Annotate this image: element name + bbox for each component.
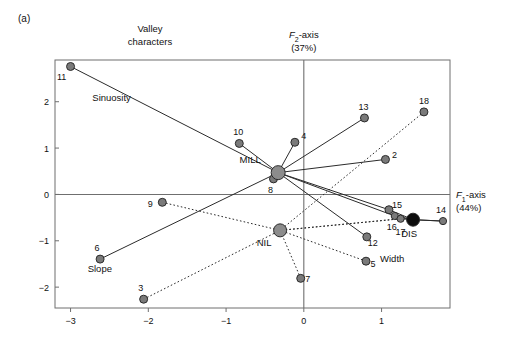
data-point-label-3: 3 [138,283,143,293]
centroid-dis[interactable] [407,213,420,226]
x-tick-label: −1 [221,316,231,326]
x-tick-label: 0 [301,316,306,326]
connector-line-13 [278,118,364,173]
x-axis-title-main: F1-axis [456,189,486,203]
connector-line-7 [280,230,301,278]
data-point-label-2: 2 [392,150,397,160]
annotation-sinuosity: Sinuosity [92,92,131,103]
connector-line-9 [162,202,280,230]
annotation-width: Width [380,253,404,264]
data-point-9[interactable] [158,198,166,206]
ordination-biplot: (a)Valleycharacters−3−2−101210−1−2F2-axi… [0,0,506,340]
biplot-figure: (a)Valleycharacters−3−2−101210−1−2F2-axi… [0,0,506,340]
data-point-label-4: 4 [301,131,306,141]
y-tick-label: 1 [44,144,49,154]
data-point-label-6: 6 [95,243,100,253]
y-tick-label: −2 [39,283,49,293]
x-axis-title: F1-axis(44%) [456,189,486,213]
y-axis-title: F2-axis(37%) [289,29,319,53]
data-point-10[interactable] [235,139,243,147]
data-point-17[interactable] [397,215,404,222]
centroid-mill[interactable] [271,166,285,180]
group-label-dis: DIS [401,228,417,239]
data-point-label-9: 9 [148,199,153,209]
y-axis-title-pct: (37%) [291,42,316,53]
data-point-6[interactable] [96,255,104,263]
data-point-label-12: 12 [368,238,378,248]
data-point-2[interactable] [381,155,389,163]
x-tick-label: 1 [379,316,384,326]
panel-label: (a) [18,13,30,24]
data-point-label-8: 8 [268,185,273,195]
group-label-nil: NIL [257,237,272,248]
data-point-label-18: 18 [419,96,429,106]
x-axis-title-pct: (44%) [456,202,481,213]
data-point-14[interactable] [439,217,446,224]
data-point-label-14: 14 [436,205,446,215]
connector-line-15 [278,173,389,210]
data-point-7[interactable] [297,274,305,282]
data-point-4[interactable] [291,138,299,146]
data-point-label-7: 7 [305,274,310,284]
annotation-slope: Slope [88,263,112,274]
y-tick-label: 0 [44,190,49,200]
x-tick-label: −3 [65,316,75,326]
data-point-13[interactable] [360,114,368,122]
data-point-label-5: 5 [371,259,376,269]
connector-line-12 [278,173,367,237]
connector-line-5 [280,230,366,261]
header-title-line2: characters [128,36,173,47]
data-point-11[interactable] [67,62,75,70]
connector-extra-17 [280,219,401,231]
y-tick-label: −1 [39,236,49,246]
connector-line-6 [100,173,278,259]
data-point-label-11: 11 [57,72,66,82]
connector-line-2 [278,159,385,172]
data-point-label-15: 15 [392,200,402,210]
data-point-5[interactable] [362,257,370,265]
y-axis-title-main: F2-axis [289,29,319,43]
centroid-nil[interactable] [274,224,287,237]
data-point-18[interactable] [420,108,428,116]
data-point-label-10: 10 [233,127,243,137]
data-point-label-13: 13 [358,102,368,112]
data-point-3[interactable] [140,295,148,303]
connector-line-18 [280,112,424,230]
group-label-mill: MILL [240,154,261,165]
header-title-line1: Valley [137,23,162,34]
y-tick-label: 2 [44,97,49,107]
x-tick-label: −2 [143,316,153,326]
